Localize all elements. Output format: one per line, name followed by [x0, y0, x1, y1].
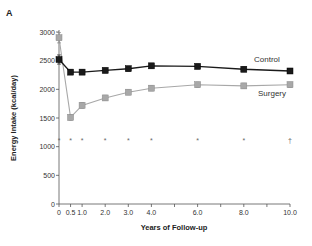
data-point-square [148, 85, 154, 91]
data-point-square [102, 95, 108, 101]
data-point-square [287, 82, 293, 88]
data-point-square [125, 89, 131, 95]
legend-label-control: Control [254, 55, 280, 64]
y-axis-title: Energy Intake (kcal/day) [9, 75, 18, 161]
data-point-square [148, 63, 154, 69]
significance-marker: * [150, 137, 153, 144]
panel-label: A [6, 8, 13, 18]
significance-marker: * [104, 137, 107, 144]
y-tick-label: 3000 [39, 29, 55, 36]
data-series [56, 33, 293, 121]
y-tick-label: 0 [51, 201, 55, 208]
x-tick-label: 3.0 [123, 209, 133, 216]
x-tick-label: 2.0 [100, 209, 110, 216]
significance-marker: * [81, 137, 84, 144]
significance-marker: * [127, 137, 130, 144]
y-tick-label: 500 [43, 172, 55, 179]
x-tick-label: 0 [57, 209, 61, 216]
data-point-square [125, 66, 131, 72]
y-tick-label: 1000 [39, 143, 55, 150]
x-tick-label: 4.0 [147, 209, 157, 216]
data-point-square [102, 67, 108, 73]
data-point-square [79, 69, 85, 75]
data-point-square [241, 83, 247, 89]
x-tick-label: 1.0 [77, 209, 87, 216]
series-line [59, 38, 290, 118]
data-point-square [195, 82, 201, 88]
legend-label-surgery: Surgery [258, 89, 286, 98]
y-tick-label: 1500 [39, 115, 55, 122]
data-point-square [79, 102, 85, 108]
significance-marker: † [288, 137, 292, 144]
data-point-square [195, 63, 201, 69]
significance-markers: ********† [58, 137, 292, 144]
data-point-square [68, 69, 74, 75]
significance-marker: * [242, 137, 245, 144]
data-point-square [56, 35, 62, 41]
significance-marker: * [196, 137, 199, 144]
significance-marker: * [69, 137, 72, 144]
energy-intake-chart: A 05001000150020002500300000.51.02.03.04… [0, 0, 312, 246]
significance-marker: * [58, 137, 61, 144]
x-tick-label: 6.0 [193, 209, 203, 216]
x-tick-label: 8.0 [239, 209, 249, 216]
data-point-square [241, 66, 247, 72]
y-tick-label: 2500 [39, 57, 55, 64]
series-surgery [56, 33, 293, 121]
data-point-square [68, 114, 74, 120]
x-axis-title: Years of Follow-up [141, 223, 208, 232]
x-tick-label: 0.5 [66, 209, 76, 216]
y-tick-label: 2000 [39, 86, 55, 93]
x-tick-label: 10.0 [283, 209, 297, 216]
data-point-square [56, 57, 62, 63]
data-point-square [287, 68, 293, 74]
